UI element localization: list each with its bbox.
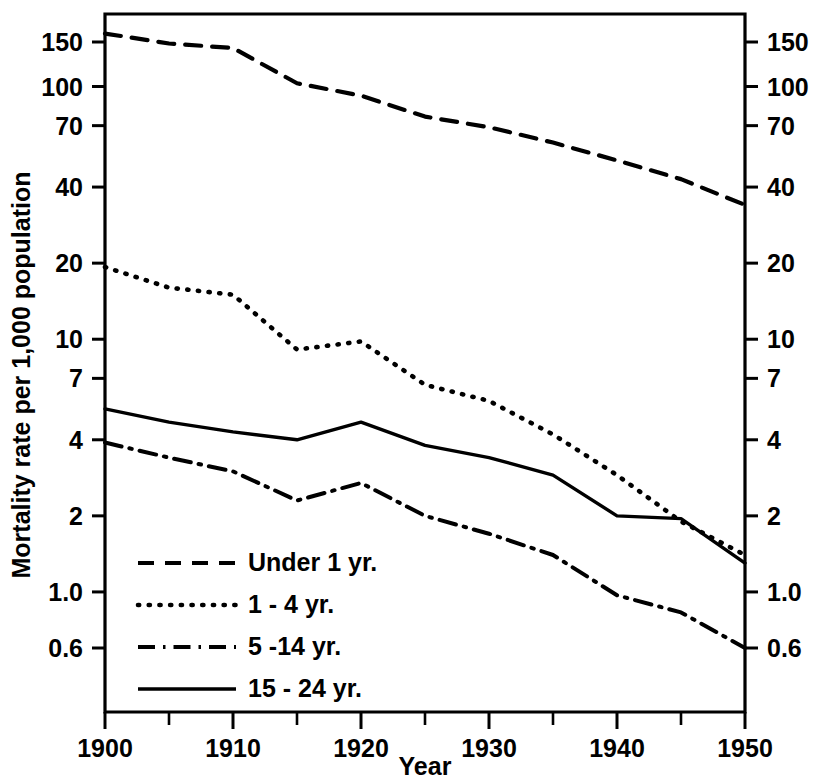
- y-axis-left-ticks: [92, 42, 105, 648]
- series-line: [105, 34, 745, 205]
- y-tick-label-left: 10: [55, 325, 83, 353]
- y-tick-label-right: 10: [767, 325, 795, 353]
- y-tick-label-right: 1.0: [767, 578, 802, 606]
- x-tick-label: 1950: [717, 734, 773, 762]
- legend-label: Under 1 yr.: [248, 548, 377, 576]
- x-tick-label: 1900: [77, 734, 133, 762]
- y-axis-right-ticks: [745, 42, 758, 648]
- y-tick-label-right: 0.6: [767, 634, 802, 662]
- y-tick-label-left: 20: [55, 249, 83, 277]
- legend-label: 15 - 24 yr.: [248, 674, 362, 702]
- x-tick-label: 1910: [205, 734, 261, 762]
- y-axis-right-tick-labels: 150100704020107421.00.6: [767, 28, 809, 662]
- y-tick-label-right: 7: [767, 364, 781, 392]
- chart-figure: 150100704020107421.00.6 1501007040201074…: [0, 0, 840, 780]
- data-series-group: [105, 34, 745, 648]
- y-tick-label-right: 70: [767, 112, 795, 140]
- legend-label: 5 -14 yr.: [248, 632, 341, 660]
- y-tick-label-left: 40: [55, 173, 83, 201]
- y-tick-label-left: 0.6: [48, 634, 83, 662]
- x-axis-title: Year: [399, 752, 452, 780]
- series-line: [105, 267, 745, 555]
- y-tick-label-left: 1.0: [48, 578, 83, 606]
- y-tick-label-right: 150: [767, 28, 809, 56]
- x-axis-ticks: [105, 712, 745, 729]
- series-line: [105, 409, 745, 563]
- y-tick-label-right: 40: [767, 173, 795, 201]
- series-line: [105, 443, 745, 648]
- y-axis-title: Mortality rate per 1,000 population: [7, 171, 35, 578]
- y-tick-label-right: 4: [767, 426, 781, 454]
- x-tick-label: 1930: [461, 734, 517, 762]
- y-tick-label-right: 20: [767, 249, 795, 277]
- legend-label: 1 - 4 yr.: [248, 590, 334, 618]
- x-tick-label: 1920: [333, 734, 389, 762]
- y-tick-label-right: 100: [767, 73, 809, 101]
- y-tick-label-left: 7: [69, 364, 83, 392]
- chart-legend: Under 1 yr.1 - 4 yr.5 -14 yr.15 - 24 yr.: [138, 548, 377, 702]
- y-tick-label-left: 2: [69, 502, 83, 530]
- y-tick-label-left: 4: [69, 426, 83, 454]
- y-tick-label-right: 2: [767, 502, 781, 530]
- y-tick-label-left: 150: [41, 28, 83, 56]
- mortality-rate-line-chart: 150100704020107421.00.6 1501007040201074…: [0, 0, 840, 780]
- y-axis-left-tick-labels: 150100704020107421.00.6: [41, 28, 83, 662]
- x-tick-label: 1940: [589, 734, 645, 762]
- y-tick-label-left: 70: [55, 112, 83, 140]
- y-tick-label-left: 100: [41, 73, 83, 101]
